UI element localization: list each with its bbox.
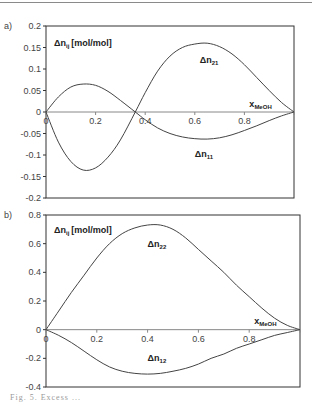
y-tick-label: -0.05 bbox=[20, 129, 41, 139]
y-tick-label: 0.6 bbox=[28, 239, 41, 249]
y-axis-label: Δnij[mol/mol] bbox=[54, 38, 112, 49]
y-tick-label: 0.1 bbox=[28, 64, 41, 74]
figure-canvas: 0.20.150.10.050-0.05-0.1-0.15-0.200.20.4… bbox=[0, 0, 315, 403]
y-tick-label: 0.2 bbox=[28, 21, 41, 31]
x-tick-label: 0.6 bbox=[192, 334, 205, 344]
x-tick-label: 0.4 bbox=[139, 116, 152, 126]
y-axis-label: Δnij[mol/mol] bbox=[54, 225, 112, 236]
panel-label: a) bbox=[4, 21, 12, 31]
series-label-11: Δn11 bbox=[195, 149, 214, 160]
series-line-Δn22 bbox=[46, 225, 300, 330]
x-tick-label: 0.4 bbox=[141, 334, 154, 344]
x-tick-label: 0.2 bbox=[89, 116, 102, 126]
x-tick-label: 0 bbox=[43, 334, 48, 344]
y-tick-label: -0.15 bbox=[20, 172, 41, 182]
figure-caption: Fig. 5. Excess ... bbox=[10, 393, 81, 402]
y-tick-label: 0.05 bbox=[23, 86, 41, 96]
y-tick-label: -0.2 bbox=[25, 193, 41, 203]
y-tick-label: 0 bbox=[36, 325, 41, 335]
x-tick-label: 0.8 bbox=[238, 116, 251, 126]
plot-frame bbox=[46, 215, 300, 387]
y-tick-label: 0.4 bbox=[28, 267, 41, 277]
y-tick-label: 0.8 bbox=[28, 210, 41, 220]
series-label-22: Δn22 bbox=[148, 239, 167, 250]
x-tick-label: 0.2 bbox=[91, 334, 104, 344]
y-tick-label: -0.2 bbox=[25, 353, 41, 363]
series-label-21: Δn21 bbox=[200, 55, 219, 66]
series-line-Δn12 bbox=[46, 330, 300, 374]
chart-panel-a: 0.20.150.10.050-0.05-0.1-0.15-0.200.20.4… bbox=[4, 21, 294, 203]
panel-label: b) bbox=[4, 210, 12, 220]
y-tick-label: -0.4 bbox=[25, 382, 41, 392]
y-tick-label: -0.1 bbox=[25, 150, 41, 160]
y-tick-label: 0.15 bbox=[23, 43, 41, 53]
x-axis-label: xMeOH bbox=[249, 99, 271, 110]
x-tick-label: 0.6 bbox=[189, 116, 202, 126]
chart-panel-b: 0.80.60.40.20-0.2-0.400.20.40.60.8b)Δnij… bbox=[4, 210, 300, 392]
series-label-12: Δn12 bbox=[148, 353, 167, 364]
y-tick-label: 0.2 bbox=[28, 296, 41, 306]
y-tick-label: 0 bbox=[36, 107, 41, 117]
